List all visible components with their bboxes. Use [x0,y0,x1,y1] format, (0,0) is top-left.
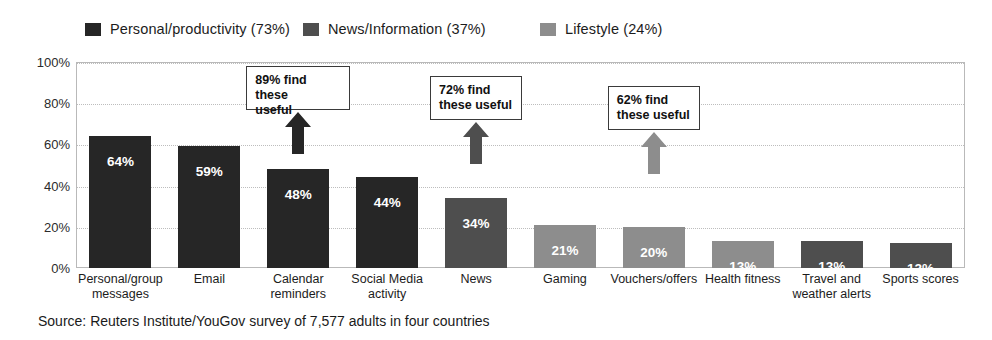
legend-item-news[interactable]: News/Information (37%) [303,16,486,42]
bar-value-label: 20% [623,245,685,260]
bar-personal[interactable]: 44% [356,177,418,268]
annotation-up-arrow-icon [463,122,489,164]
bar-rect: 12% [890,243,952,268]
bar-value-label: 44% [356,195,418,210]
annotation-up-arrow-icon [285,112,311,154]
annotation-callout: 62% findthese useful [608,86,700,130]
legend-swatch-icon [303,23,319,36]
y-axis-tick-label: 20% [4,219,70,234]
legend-item-lifestyle[interactable]: Lifestyle (24%) [540,16,662,42]
y-axis-tick-label: 0% [4,261,70,276]
annotation-callout: 89% find theseuseful [246,66,350,110]
x-axis-labels: Personal/group messagesEmailCalendar rem… [76,272,965,310]
annotation-line-1: 72% find [439,83,513,98]
legend-swatch-icon [540,23,556,36]
bar-news[interactable]: 34% [445,198,507,268]
annotation-up-arrow-icon [641,132,667,174]
bar-rect: 21% [534,225,596,268]
bar-personal[interactable]: 59% [178,146,240,268]
source-note: Source: Reuters Institute/YouGov survey … [38,313,490,329]
bar-rect: 59% [178,146,240,268]
bar-rect: 20% [623,227,685,268]
annotation-line-2: these useful [439,98,513,113]
legend-item-personal[interactable]: Personal/productivity (73%) [85,16,290,42]
x-axis-tick-label: Email [165,272,254,287]
bar-rect: 48% [267,169,329,268]
bar-personal[interactable]: 48% [267,169,329,268]
bar-rect: 13% [801,241,863,268]
bar-value-label: 59% [178,164,240,179]
chart-legend: Personal/productivity (73%)News/Informat… [0,16,992,42]
x-axis-tick-label: Gaming [521,272,610,287]
annotation-line-1: 89% find these [255,73,341,103]
x-axis-tick-label: Personal/group messages [76,272,165,302]
bar-rect: 44% [356,177,418,268]
bar-personal[interactable]: 64% [89,136,151,268]
y-axis-tick-label: 80% [4,96,70,111]
bar-rect: 13% [712,241,774,268]
x-axis-tick-label: Sports scores [876,272,965,287]
bar-lifestyle[interactable]: 20% [623,227,685,268]
x-axis-tick-label: Travel and weather alerts [787,272,876,302]
bar-rect: 64% [89,136,151,268]
bar-lifestyle[interactable]: 13% [712,241,774,268]
legend-item-label: News/Information (37%) [328,21,486,37]
bar-value-label: 21% [534,243,596,258]
bar-chart: Personal/productivity (73%)News/Informat… [0,0,992,340]
y-axis-tick-label: 40% [4,178,70,193]
bar-news[interactable]: 12% [890,243,952,268]
legend-swatch-icon [85,23,101,36]
bar-value-label: 34% [445,216,507,231]
x-axis-tick-label: Health fitness [698,272,787,287]
bar-value-label: 64% [89,154,151,169]
x-axis-tick-label: Vouchers/offers [609,272,698,287]
annotation-line-2: these useful [617,108,691,123]
bar-lifestyle[interactable]: 21% [534,225,596,268]
y-axis-labels: 100%80%60%40%20%0% [0,62,70,268]
bar-value-label: 48% [267,187,329,202]
x-axis-tick-label: Social Media activity [343,272,432,302]
bar-news[interactable]: 13% [801,241,863,268]
annotation-line-1: 62% find [617,93,691,108]
legend-item-label: Personal/productivity (73%) [110,21,290,37]
y-axis-tick-label: 100% [4,55,70,70]
bar-rect: 34% [445,198,507,268]
legend-item-label: Lifestyle (24%) [565,21,662,37]
y-axis-tick-label: 60% [4,137,70,152]
annotation-callout: 72% findthese useful [430,76,522,120]
x-axis-tick-label: Calendar reminders [254,272,343,302]
x-axis-tick-label: News [432,272,521,287]
